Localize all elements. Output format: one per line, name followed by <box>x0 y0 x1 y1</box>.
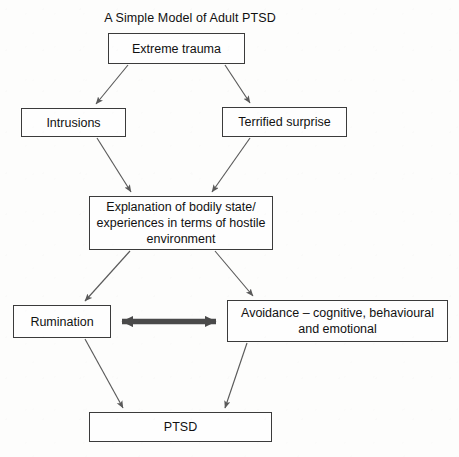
node-extreme-trauma-label: Extreme trauma <box>128 41 225 57</box>
node-rumination: Rumination <box>13 305 111 338</box>
node-terrified-surprise-label: Terrified surprise <box>234 114 334 130</box>
node-explanation-of-bodily-state: Explanation of bodily state/ experiences… <box>89 196 273 250</box>
node-rumination-label: Rumination <box>26 314 97 330</box>
node-terrified-surprise: Terrified surprise <box>222 107 347 137</box>
node-avoidance: Avoidance – cognitive, behavioural and e… <box>227 300 448 342</box>
node-avoidance-label: Avoidance – cognitive, behavioural and e… <box>237 305 438 337</box>
edge-avoidance-to-ptsd <box>225 343 247 408</box>
diagram-canvas: A Simple Model of Adult PTSD <box>0 0 459 457</box>
edge-trauma-to-terrified <box>225 65 250 103</box>
edge-terrified-to-explanation <box>212 138 250 192</box>
node-intrusions: Intrusions <box>21 108 126 137</box>
node-explanation-label: Explanation of bodily state/ experiences… <box>93 199 270 247</box>
edge-explanation-to-rumination <box>85 251 130 301</box>
edge-rumination-to-ptsd <box>85 339 123 408</box>
edge-explanation-to-avoidance <box>215 251 253 296</box>
node-intrusions-label: Intrusions <box>42 115 104 131</box>
node-extreme-trauma: Extreme trauma <box>108 33 245 64</box>
node-ptsd: PTSD <box>89 412 272 442</box>
edge-intrusions-to-explanation <box>97 138 131 192</box>
diagram-title: A Simple Model of Adult PTSD <box>0 11 380 25</box>
node-ptsd-label: PTSD <box>160 419 201 435</box>
edge-trauma-to-intrusions <box>96 65 128 104</box>
